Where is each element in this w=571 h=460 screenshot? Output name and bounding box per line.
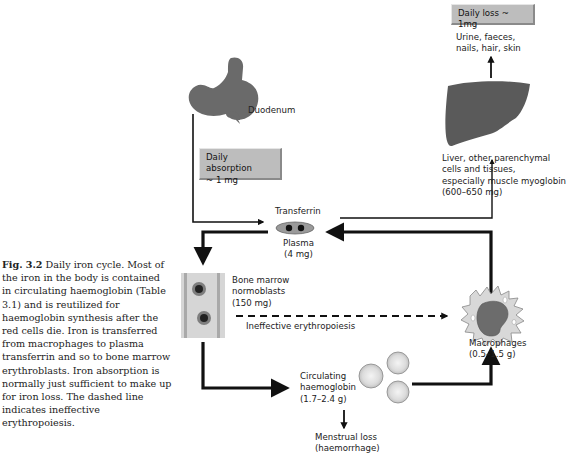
bone-marrow-line1: Bone marrow bbox=[232, 275, 289, 286]
transferrin-icon bbox=[276, 222, 314, 234]
macrophages-line1: Macrophages bbox=[469, 338, 526, 349]
macrophage-to-transferrin-arrow bbox=[329, 232, 491, 296]
plasma-line1: Plasma bbox=[283, 238, 314, 249]
daily-absorption-line1: Daily absorption bbox=[206, 152, 274, 175]
transferrin-label: Transferrin bbox=[275, 206, 321, 217]
circulating-line2: haemoglobin bbox=[300, 382, 356, 393]
liver-icon bbox=[445, 81, 530, 146]
liver-line1: Liver, other parenchymal bbox=[442, 153, 566, 164]
loss-routes-line1: Urine, faeces, bbox=[456, 32, 521, 43]
bone-marrow-icon bbox=[181, 273, 225, 338]
macrophages-line2: (0.5–1.5 g) bbox=[469, 349, 526, 360]
menstrual-loss-label: Menstrual loss (haemorrhage) bbox=[315, 432, 380, 455]
loss-routes-label: Urine, faeces, nails, hair, skin bbox=[456, 32, 521, 55]
iron-cycle-diagram bbox=[0, 0, 571, 460]
bone-marrow-line2: normoblasts bbox=[232, 286, 289, 297]
circulating-haemoglobin-label: Circulating haemoglobin (1.7–2.4 g) bbox=[300, 371, 356, 405]
marrow-to-circulation-arrow bbox=[203, 342, 286, 388]
bone-marrow-label: Bone marrow normoblasts (150 mg) bbox=[232, 275, 289, 309]
transferrin-to-marrow-arrow bbox=[203, 232, 268, 262]
plasma-label: Plasma (4 mg) bbox=[283, 238, 314, 261]
menstrual-line1: Menstrual loss bbox=[315, 432, 380, 443]
loss-routes-line2: nails, hair, skin bbox=[456, 43, 521, 54]
circulating-line3: (1.7–2.4 g) bbox=[300, 394, 356, 405]
menstrual-line2: (haemorrhage) bbox=[315, 443, 380, 454]
macrophage-icon bbox=[461, 286, 524, 346]
macrophages-label: Macrophages (0.5–1.5 g) bbox=[469, 338, 526, 361]
liver-line2: cells and tissues, bbox=[442, 164, 566, 175]
circulating-line1: Circulating bbox=[300, 371, 356, 382]
red-cells-icon bbox=[359, 352, 409, 403]
ineffective-erythropoiesis-label: Ineffective erythropoiesis bbox=[246, 321, 355, 332]
liver-line3: especially muscle myoglobin bbox=[442, 176, 566, 187]
bone-marrow-line3: (150 mg) bbox=[232, 298, 289, 309]
daily-loss-box: Daily loss ~ 1mg bbox=[451, 4, 535, 25]
duodenum-label: Duodenum bbox=[248, 105, 295, 116]
daily-loss-label: Daily loss ~ 1mg bbox=[458, 8, 527, 31]
daily-absorption-box: Daily absorption ~ 1 mg bbox=[199, 148, 282, 180]
daily-absorption-line2: ~ 1 mg bbox=[206, 175, 274, 186]
liver-label: Liver, other parenchymal cells and tissu… bbox=[442, 153, 566, 199]
liver-line4: (600–650 mg) bbox=[442, 187, 566, 198]
plasma-line2: (4 mg) bbox=[283, 249, 314, 260]
